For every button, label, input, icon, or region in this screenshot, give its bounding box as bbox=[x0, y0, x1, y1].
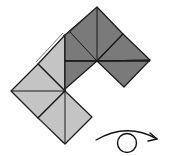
dark-face-left-lower bbox=[65, 61, 97, 89]
turn-over-symbol bbox=[96, 131, 157, 153]
dark-face-right-lower bbox=[97, 60, 150, 87]
origami-diagram: Folded paper (origami) diagram showing a… bbox=[0, 0, 169, 156]
diagram-canvas bbox=[0, 0, 169, 156]
dark-face-region bbox=[63, 7, 150, 89]
turn-over-arc-arrow bbox=[96, 131, 157, 140]
turn-over-circle-icon bbox=[118, 134, 137, 153]
